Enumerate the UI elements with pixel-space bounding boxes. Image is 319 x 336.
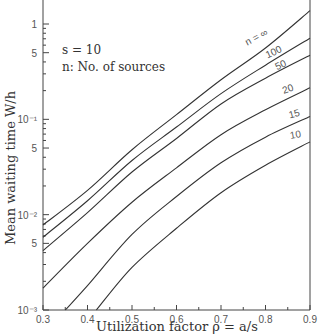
curve-label: n = ∞ <box>243 26 269 47</box>
curve-label: 10 <box>289 128 302 141</box>
curve-n-20 <box>43 88 310 288</box>
y-tick-label: 5 <box>31 143 37 154</box>
curve-n-50 <box>43 55 310 250</box>
y-tick-label: 1 <box>31 19 37 30</box>
n-legend-annotation: n: No. of sources <box>62 60 165 74</box>
curve-n-10 <box>96 142 310 310</box>
x-tick-label: 0.4 <box>81 314 95 325</box>
x-tick-label: 0.9 <box>303 314 317 325</box>
curve-label: 15 <box>287 107 301 121</box>
curve-n-15 <box>65 117 310 310</box>
s-parameter-annotation: s = 10 <box>62 43 101 57</box>
y-tick-label: 5 <box>31 238 37 249</box>
y-tick-label: 10⁻² <box>18 210 38 221</box>
x-axis-label: Utilization factor ρ = a/s <box>96 319 258 334</box>
chart: 0.30.40.50.60.70.80.910⁻³510⁻²510⁻¹51 n … <box>0 0 319 336</box>
y-tick-label: 10⁻³ <box>18 305 38 316</box>
y-tick-label: 5 <box>31 48 37 59</box>
x-tick-label: 0.8 <box>259 314 273 325</box>
y-tick-label: 10⁻¹ <box>18 114 38 125</box>
x-tick-label: 0.3 <box>36 314 50 325</box>
curve-label: 20 <box>281 81 296 95</box>
y-axis-label: Mean waiting time W/h <box>3 90 18 245</box>
